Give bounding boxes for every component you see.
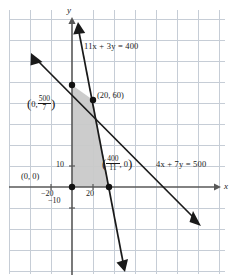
x-axis-label: x xyxy=(224,182,228,191)
point-origin xyxy=(69,184,75,190)
point-intersection xyxy=(90,97,96,103)
tick-label-y-neg10: −10 xyxy=(48,197,61,205)
x-intercept-y-part: , 0 xyxy=(120,159,129,169)
point-label-origin: (0, 0) xyxy=(21,172,39,181)
axis-lines xyxy=(9,22,215,275)
close-paren: ) xyxy=(51,96,55,111)
equation-label-line2: 4x + 7y = 500 xyxy=(156,160,206,169)
equation-label-line1: 11x + 3y = 400 xyxy=(84,42,139,51)
x-axis-arrowhead xyxy=(214,183,221,190)
fraction-500-over-7: 5007 xyxy=(38,95,51,112)
close-paren: ) xyxy=(128,156,132,171)
fraction-400-over-11: 40011 xyxy=(106,155,119,172)
tick-label-x-20: 20 xyxy=(86,190,94,198)
line1-arrowhead-bottom xyxy=(117,259,129,272)
point-x-intercept xyxy=(106,184,112,190)
point-label-intersection: (20, 60) xyxy=(97,91,124,100)
y-axis-label: y xyxy=(67,6,71,15)
tick-label-y-10: 10 xyxy=(56,161,64,169)
point-y-intercept xyxy=(69,82,75,88)
graph-figure: y x 11x + 3y = 400 4x + 7y = 500 (20, 60… xyxy=(0,0,234,280)
line2-arrowhead-end xyxy=(190,211,202,226)
fraction-denominator: 11 xyxy=(106,164,119,172)
y-axis-arrowhead xyxy=(68,17,75,24)
fraction-denominator: 7 xyxy=(38,104,51,112)
point-label-x-intercept: (40011, 0) xyxy=(102,155,132,172)
point-label-y-intercept: (0,5007) xyxy=(27,95,55,112)
